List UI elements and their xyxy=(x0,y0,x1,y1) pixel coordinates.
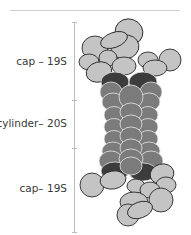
section-bracket xyxy=(72,22,77,233)
proteasome-diagram xyxy=(0,0,191,235)
top-cap-19s xyxy=(79,15,181,85)
